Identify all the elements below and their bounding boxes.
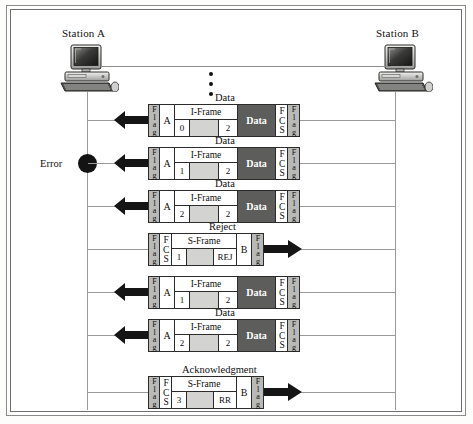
- frame-row-4[interactable]: Flag FCS S-Frame 1 REJ B Flag: [148, 233, 264, 266]
- frame-row-2-address: A: [160, 148, 175, 179]
- frame-row-2-payload: Data: [238, 148, 276, 179]
- frame-row-4-flag-right: Flag: [252, 234, 263, 265]
- frame-row-3-pad: [190, 206, 219, 222]
- frame-row-7-code: RR: [214, 392, 236, 408]
- frame-row-3-fcs: FCS: [276, 191, 288, 222]
- wire-row-7-right: [300, 392, 395, 393]
- frame-row-6-ns: 2: [175, 335, 190, 351]
- frame-row-1[interactable]: Flag A I-Frame 0 2 Data FCS Flag: [148, 104, 300, 137]
- vertical-ellipsis-icon: [209, 72, 213, 102]
- frame-row-5-payload: Data: [238, 277, 276, 308]
- frame-row-1-flag-right: Flag: [288, 105, 299, 136]
- caption-row-5-below: Data: [215, 307, 235, 318]
- station-a-timeline: [87, 92, 88, 410]
- station-a-label: Station A: [62, 27, 105, 39]
- frame-row-1-ns: 0: [175, 120, 190, 136]
- frame-row-7-type: S-Frame: [172, 377, 236, 392]
- arrow-left-row-2: [113, 153, 149, 177]
- frame-row-6-fcs: FCS: [276, 320, 288, 351]
- frame-row-4-type: S-Frame: [172, 234, 236, 249]
- frame-row-2-flag-left: Flag: [149, 148, 160, 179]
- frame-row-2-type: I-Frame: [175, 148, 237, 163]
- caption-row-2: Data: [215, 135, 235, 146]
- frame-row-7-pad: [187, 392, 214, 408]
- arrow-right-row-4: [263, 239, 303, 263]
- frame-row-4-control: S-Frame 1 REJ: [172, 234, 237, 265]
- frame-row-2-nr: 2: [219, 163, 237, 179]
- frame-row-7-ns: 3: [172, 392, 187, 408]
- frame-row-3-flag-left: Flag: [149, 191, 160, 222]
- frame-row-6-nr: 2: [219, 335, 237, 351]
- frame-row-2[interactable]: Flag A I-Frame 1 2 Data FCS Flag: [148, 147, 300, 180]
- frame-row-2-flag-right: Flag: [288, 148, 299, 179]
- frame-row-5-address: A: [160, 277, 175, 308]
- frame-row-2-fcs: FCS: [276, 148, 288, 179]
- station-a-computer-icon: [57, 44, 119, 92]
- frame-row-1-type: I-Frame: [175, 105, 237, 120]
- frame-row-3-control: I-Frame 2 2: [175, 191, 238, 222]
- caption-row-4: Reject: [209, 221, 236, 232]
- frame-row-3-ns: 2: [175, 206, 190, 222]
- caption-row-7: Acknowledgment: [182, 364, 257, 375]
- frame-row-3-type: I-Frame: [175, 191, 237, 206]
- frame-row-5-control: I-Frame 1 2: [175, 277, 238, 308]
- wire-row-4-left: [88, 249, 148, 250]
- frame-row-4-fcs: FCS: [160, 234, 172, 265]
- frame-row-5-type: I-Frame: [175, 277, 237, 292]
- frame-row-4-code: REJ: [214, 249, 236, 265]
- station-b-computer-icon: [371, 44, 433, 92]
- frame-row-6-payload: Data: [238, 320, 276, 351]
- wire-row-3-right: [300, 206, 395, 207]
- frame-row-1-fcs: FCS: [276, 105, 288, 136]
- caption-row-3: Data: [215, 178, 235, 189]
- error-label: Error: [40, 158, 62, 169]
- frame-row-4-flag-left: Flag: [149, 234, 160, 265]
- frame-row-1-address: A: [160, 105, 175, 136]
- frame-row-3-nr: 2: [219, 206, 237, 222]
- frame-row-5[interactable]: Flag A I-Frame 1 2 Data FCS Flag: [148, 276, 300, 309]
- frame-row-6-address: A: [160, 320, 175, 351]
- arrow-left-row-3: [113, 196, 149, 220]
- frame-row-5-nr: 2: [219, 292, 237, 308]
- frame-row-5-ns: 1: [175, 292, 190, 308]
- frame-row-1-payload: Data: [238, 105, 276, 136]
- frame-row-7[interactable]: Flag FCS S-Frame 3 RR B Flag: [148, 376, 264, 409]
- frame-row-3[interactable]: Flag A I-Frame 2 2 Data FCS Flag: [148, 190, 300, 223]
- frame-row-5-flag-right: Flag: [288, 277, 299, 308]
- frame-row-3-flag-right: Flag: [288, 191, 299, 222]
- frame-row-1-flag-left: Flag: [149, 105, 160, 136]
- frame-row-4-address: B: [237, 234, 252, 265]
- station-link-line: [101, 66, 391, 67]
- frame-row-6-control: I-Frame 2 2: [175, 320, 238, 351]
- frame-row-4-ns: 1: [172, 249, 187, 265]
- frame-row-6-type: I-Frame: [175, 320, 237, 335]
- frame-row-2-ns: 1: [175, 163, 190, 179]
- wire-row-1-right: [300, 120, 395, 121]
- wire-row-2-right: [300, 163, 395, 164]
- arrow-left-row-5: [113, 282, 149, 306]
- frame-row-7-flag-right: Flag: [252, 377, 263, 408]
- frame-row-3-address: A: [160, 191, 175, 222]
- frame-row-5-flag-left: Flag: [149, 277, 160, 308]
- frame-row-7-flag-left: Flag: [149, 377, 160, 408]
- arrow-left-row-6: [113, 325, 149, 349]
- frame-row-5-fcs: FCS: [276, 277, 288, 308]
- frame-row-4-pad: [187, 249, 214, 265]
- frame-row-2-pad: [190, 163, 219, 179]
- frame-row-5-pad: [190, 292, 219, 308]
- frame-row-1-pad: [190, 120, 219, 136]
- station-b-timeline: [395, 92, 396, 410]
- wire-row-7-left: [88, 392, 148, 393]
- arrow-left-row-1: [113, 110, 149, 134]
- frame-row-2-control: I-Frame 1 2: [175, 148, 238, 179]
- frame-row-6-flag-right: Flag: [288, 320, 299, 351]
- frame-row-7-fcs: FCS: [160, 377, 172, 408]
- caption-row-1: Data: [215, 92, 235, 103]
- wire-row-6-right: [300, 335, 395, 336]
- arrow-right-row-7: [263, 382, 303, 406]
- frame-row-7-address: B: [237, 377, 252, 408]
- frame-row-6-flag-left: Flag: [149, 320, 160, 351]
- frame-row-6[interactable]: Flag A I-Frame 2 2 Data FCS Flag: [148, 319, 300, 352]
- frame-row-3-payload: Data: [238, 191, 276, 222]
- station-b-label: Station B: [376, 27, 419, 39]
